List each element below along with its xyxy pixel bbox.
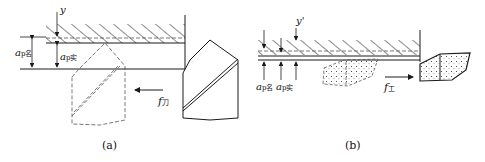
label-deflection-a: y <box>60 5 66 15</box>
label-ap-actual-a-sub: p实 <box>66 54 77 62</box>
label-ap-actual-a: ap实 <box>60 52 77 62</box>
panel-b <box>258 28 470 86</box>
tool-ghost-a <box>72 43 125 125</box>
workpiece-hatch-b <box>258 40 420 55</box>
caption-a: (a) <box>102 140 117 151</box>
label-ap-nominal-a: ap名 <box>15 48 32 58</box>
caption-b: (b) <box>345 140 361 151</box>
workpiece-hatch-a <box>46 24 185 43</box>
label-feed-b-sub: 工 <box>388 85 395 93</box>
label-ap-actual-b-sub: p实 <box>282 84 293 92</box>
label-ap-actual-b: ap实 <box>276 82 293 92</box>
diagram-canvas <box>0 0 485 162</box>
label-feed-b: f工 <box>384 82 395 93</box>
label-deflection-b: y' <box>296 16 304 26</box>
label-ap-nominal-a-sub: p名 <box>21 50 32 58</box>
label-feed-a: f刀 <box>158 96 169 107</box>
label-ap-nominal-b-sub: p名 <box>262 84 273 92</box>
label-ap-nominal-b: ap名 <box>256 82 273 92</box>
cutting-tool-a <box>183 40 238 120</box>
workpiece-b <box>420 53 470 81</box>
label-feed-a-sub: 刀 <box>162 99 169 107</box>
workpiece-ghost-b <box>323 59 378 86</box>
panel-a <box>20 12 238 125</box>
